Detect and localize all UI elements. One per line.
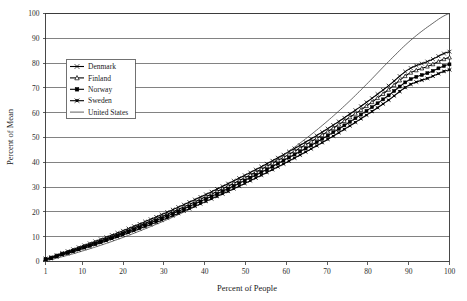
y-tick-label: 30 — [32, 183, 40, 192]
data-point-marker-norway — [310, 144, 313, 147]
data-point-marker-norway — [221, 190, 224, 193]
data-point-marker-norway — [299, 150, 302, 153]
data-point-marker-sweden — [320, 141, 324, 144]
data-point-marker-norway — [437, 67, 440, 70]
y-tick-label: 100 — [28, 9, 40, 18]
x-tick-label: 10 — [78, 267, 86, 276]
data-point-marker-norway — [288, 156, 291, 159]
x-tick-label: 20 — [119, 267, 127, 276]
data-point-marker-denmark — [392, 79, 396, 83]
data-point-marker-norway — [260, 171, 263, 174]
x-axis-ticks — [46, 262, 450, 265]
data-point-marker-norway — [393, 90, 396, 93]
y-tick-label: 0 — [36, 257, 40, 266]
y-tick-label: 60 — [32, 109, 40, 118]
y-axis-title: Percent of Mean — [5, 108, 15, 165]
data-point-marker-norway — [315, 141, 318, 144]
data-point-marker-sweden — [304, 150, 308, 153]
data-point-marker-norway — [210, 195, 213, 198]
data-point-marker-sweden — [254, 176, 258, 179]
data-point-marker-norway — [326, 134, 329, 137]
data-point-marker-norway — [321, 137, 324, 140]
data-point-marker-sweden — [403, 86, 407, 89]
data-point-marker-norway — [227, 187, 230, 190]
data-point-marker-norway — [431, 69, 434, 72]
data-point-marker-sweden — [353, 121, 357, 124]
data-point-marker-sweden — [293, 156, 297, 159]
data-point-marker-denmark — [403, 70, 407, 74]
data-point-marker-norway — [271, 165, 274, 168]
legend-label: Finland — [88, 74, 111, 83]
data-point-marker-norway — [442, 64, 445, 67]
data-point-marker-finland — [409, 71, 413, 75]
x-tick-label: 30 — [160, 267, 168, 276]
data-point-marker-norway — [426, 72, 429, 75]
data-point-marker-sweden — [315, 144, 319, 147]
data-point-marker-sweden — [259, 174, 263, 177]
data-point-marker-norway — [243, 179, 246, 182]
data-point-marker-finland — [437, 60, 441, 64]
y-tick-label: 90 — [32, 34, 40, 43]
legend-label: Sweden — [88, 96, 112, 105]
data-point-marker-sweden — [348, 124, 352, 127]
y-tick-label: 20 — [32, 208, 40, 217]
x-tick-label: 50 — [242, 267, 250, 276]
data-point-marker-sweden — [431, 74, 435, 77]
data-point-marker-sweden — [359, 117, 363, 120]
x-tick-label: 100 — [444, 267, 456, 276]
data-point-marker-norway — [216, 192, 219, 195]
y-tick-label: 10 — [32, 233, 40, 242]
data-point-marker-norway — [343, 124, 346, 127]
data-point-marker-norway — [365, 109, 368, 112]
data-point-marker-norway — [359, 113, 362, 116]
x-tick-label: 40 — [201, 267, 209, 276]
data-point-marker-denmark — [409, 66, 413, 70]
data-point-marker-norway — [415, 75, 418, 78]
data-point-marker-norway — [337, 127, 340, 130]
legend-marker-square-icon — [75, 88, 79, 92]
data-point-marker-norway — [398, 85, 401, 88]
data-point-marker-finland — [425, 64, 429, 68]
y-tick-label: 80 — [32, 59, 40, 68]
data-point-marker-sweden — [342, 128, 346, 131]
data-point-marker-sweden — [337, 131, 341, 134]
data-point-marker-sweden — [392, 94, 396, 97]
x-tick-label: 70 — [323, 267, 331, 276]
data-point-marker-norway — [282, 159, 285, 162]
data-point-marker-sweden — [281, 162, 285, 165]
data-point-marker-sweden — [309, 147, 313, 150]
data-point-marker-norway — [448, 63, 451, 66]
legend-label: Denmark — [88, 62, 116, 71]
data-point-marker-norway — [332, 131, 335, 134]
data-point-marker-norway — [354, 117, 357, 120]
data-point-marker-norway — [249, 176, 252, 179]
data-point-marker-sweden — [276, 165, 280, 168]
data-point-marker-sweden — [381, 102, 385, 105]
lorenz-curve-chart: 0102030405060708090100 11020304050607080… — [0, 0, 467, 301]
data-point-marker-denmark — [437, 54, 441, 58]
x-tick-label: 1 — [44, 267, 48, 276]
data-point-marker-sweden — [398, 90, 402, 93]
data-point-marker-finland — [442, 57, 446, 61]
data-point-marker-norway — [265, 168, 268, 171]
data-point-marker-sweden — [270, 168, 274, 171]
y-tick-label: 70 — [32, 84, 40, 93]
data-point-marker-denmark — [431, 57, 435, 61]
gridlines — [46, 14, 450, 237]
series-line-united-states — [46, 14, 450, 261]
data-point-marker-denmark — [398, 74, 402, 78]
data-point-marker-norway — [204, 197, 207, 200]
x-tick-label: 80 — [364, 267, 372, 276]
chart-container: 0102030405060708090100 11020304050607080… — [0, 0, 467, 301]
data-point-marker-sweden — [243, 182, 247, 185]
data-point-marker-finland — [431, 62, 435, 66]
legend[interactable]: DenmarkFinlandNorwaySwedenUnited States — [66, 60, 135, 119]
data-point-marker-norway — [371, 106, 374, 109]
legend-label: Norway — [88, 85, 112, 94]
data-point-marker-norway — [304, 147, 307, 150]
legend-label: United States — [88, 108, 128, 117]
data-point-marker-sweden — [409, 83, 413, 86]
data-point-marker-sweden — [376, 106, 380, 109]
data-point-marker-norway — [254, 174, 257, 177]
data-point-marker-sweden — [298, 153, 302, 156]
